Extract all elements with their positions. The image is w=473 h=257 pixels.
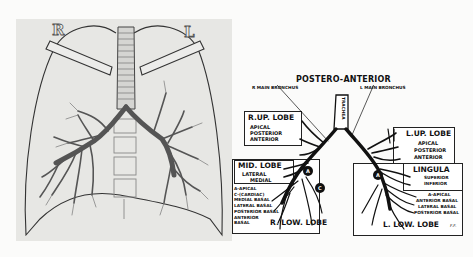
l-up-posterior: POSTERIOR (414, 148, 446, 153)
l-up-lobe-heading: L.UP. LOBE (406, 130, 451, 138)
left-clavicle (140, 41, 204, 75)
l-up-apical: APICAL (418, 141, 438, 146)
spine-drawing (114, 119, 136, 219)
trachea-label: TRACHEA (341, 97, 345, 120)
r-main-bronchus-label: R MAIN BRONCHUS (252, 86, 298, 90)
artist-signature: F.F. (450, 224, 457, 228)
marker-a-left-label: A (376, 173, 380, 178)
left-side-label: L (184, 23, 195, 41)
r-low-lobe-heading: R. LOW. LOBE (270, 219, 327, 227)
lingula-inferior: INFERIOR (424, 182, 447, 186)
l-up-anterior: ANTERIOR (414, 155, 443, 160)
right-clavicle (46, 41, 112, 75)
lingula-superior: SUPERIOR (424, 176, 449, 180)
l-main-bronchus-label: L MAIN BRONCHUS (360, 86, 406, 90)
l-low-posterior-basal: POSTERIOR BASAL (414, 211, 459, 215)
r-low-apical: A-APICAL (234, 187, 256, 191)
l-low-apical: A-APICAL (428, 193, 450, 197)
l-low-lobe-heading: L. LOW. LOBE (383, 221, 439, 229)
lingula-heading: LINGULA (413, 166, 450, 174)
segment-markers (303, 166, 383, 193)
chest-xray-illustration: R L (16, 19, 232, 241)
l-low-lateral-basal: LATERAL BASAL (418, 205, 456, 209)
l-low-anterior-basal: ANTERIOR BASAL (416, 199, 458, 203)
r-up-anterior: ANTERIOR (250, 137, 279, 142)
r-up-lobe-heading: R.UP. LOBE (248, 114, 294, 122)
right-side-label: R (52, 21, 64, 39)
lung-drawing (16, 19, 232, 241)
mid-lobe-heading: MID. LOBE (238, 162, 282, 170)
mid-medial: MEDIAL (250, 178, 271, 183)
marker-c-label: C (318, 186, 322, 191)
trachea-drawing (117, 27, 135, 109)
view-title: POSTERO-ANTERIOR (296, 76, 391, 84)
r-low-posterior-basal: POSTERIOR BASAL (234, 210, 279, 214)
bronchial-schematic: A C A POSTERO-ANTERIOR R MAIN BRONCHUS L… (228, 85, 473, 235)
r-low-basal: BASAL (234, 221, 250, 225)
r-low-lateral-basal: LATERAL BASAL (234, 204, 272, 208)
r-low-medial-basal: MEDIAL BASAL (234, 198, 270, 202)
marker-a-label: A (306, 169, 310, 174)
